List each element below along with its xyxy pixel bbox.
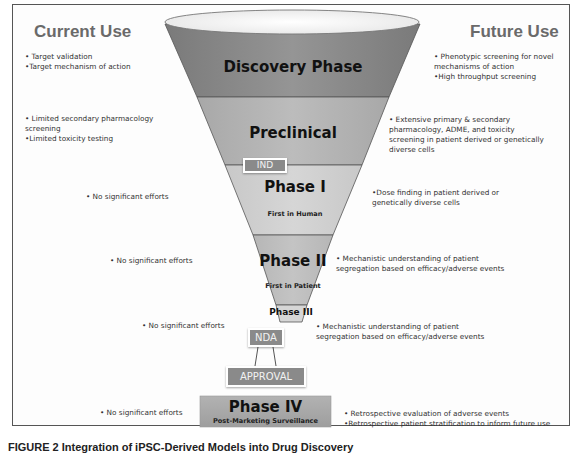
phase2-sublabel: First in Patient bbox=[240, 282, 346, 290]
phase2-band bbox=[253, 235, 333, 305]
nda-milestone: NDA bbox=[248, 328, 284, 347]
discovery-phase-label: Discovery Phase bbox=[195, 58, 391, 76]
phase2-label: Phase II bbox=[240, 252, 346, 270]
future-use-preclinical: • Extensive primary & secondary pharmaco… bbox=[389, 115, 544, 155]
current-use-phase4: • No significant efforts bbox=[100, 408, 183, 418]
current-use-discovery: • Target validation •Target mechanism of… bbox=[25, 52, 131, 72]
phase3-label: Phase III bbox=[262, 307, 320, 317]
current-use-phase1: • No significant efforts bbox=[86, 192, 169, 202]
current-use-preclinical: • Limited secondary pharmacology screeni… bbox=[25, 114, 153, 144]
figure-caption: FIGURE 2 Integration of iPSC-Derived Mod… bbox=[8, 441, 353, 453]
approval-milestone: APPROVAL bbox=[226, 366, 306, 387]
current-use-phase2: • No significant efforts bbox=[110, 256, 193, 266]
funnel-rim bbox=[165, 10, 419, 34]
phase4-label: Phase IV bbox=[200, 398, 331, 416]
phase1-label: Phase I bbox=[230, 178, 360, 196]
future-use-heading: Future Use bbox=[470, 22, 559, 42]
current-use-heading: Current Use bbox=[34, 22, 131, 42]
current-use-phase3: • No significant efforts bbox=[142, 321, 225, 331]
future-use-discovery: • Phenotypic screening for novel mechani… bbox=[434, 52, 554, 82]
ind-milestone: IND bbox=[243, 158, 287, 173]
future-use-phase4: • Retrospective evaluation of adverse ev… bbox=[344, 409, 550, 429]
future-use-phase2: • Mechanistic understanding of patient s… bbox=[336, 254, 504, 274]
phase1-band bbox=[225, 165, 362, 235]
phase4-sublabel: Post-Marketing Surveillance bbox=[200, 417, 331, 425]
phase1-sublabel: First in Human bbox=[230, 210, 360, 218]
future-use-phase3: • Mechanistic understanding of patient s… bbox=[316, 322, 484, 342]
preclinical-label: Preclinical bbox=[195, 124, 391, 142]
future-use-phase1: •Dose finding in patient derived or gene… bbox=[372, 188, 499, 208]
